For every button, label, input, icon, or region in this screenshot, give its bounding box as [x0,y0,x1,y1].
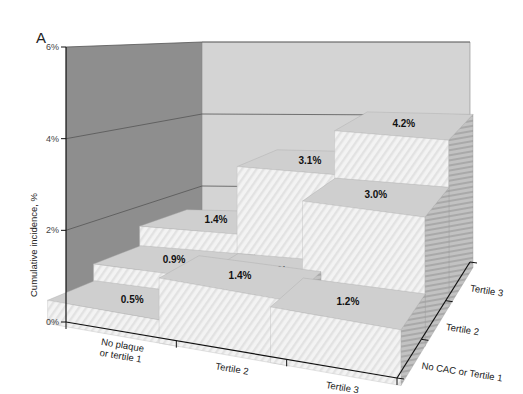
depth-category-label: Tertile 3 [469,282,504,298]
value-label: 1.4% [205,214,228,225]
value-label: 1.4% [229,270,252,281]
depth-category-label: Tertile 2 [445,321,480,337]
depth-category-label: No CAC or Tertile 1 [421,360,503,384]
x-category-label: Tertile 3 [325,379,360,394]
y-tick-label: 6% [46,42,59,52]
value-label: 3.1% [299,155,322,166]
value-label: 0.9% [163,254,186,265]
x-category-label: No plaqueor tertile 1 [99,336,145,365]
chart-stage: 1.4%3.1%4.2%0.9%0.9%3.0%0.5%1.4%1.2% 0%2… [0,0,523,394]
bar-side-face [449,114,473,307]
y-axis-title: Cumulative incidence, % [28,192,39,297]
value-label: 1.2% [337,296,360,307]
panel-label: A [36,29,46,46]
y-tick-label: 4% [46,134,59,144]
x-category-label: Tertile 2 [215,360,250,376]
y-tick-label: 2% [46,225,59,235]
y-tick-label: 0% [46,317,59,327]
value-label: 3.0% [364,189,387,200]
value-label: 0.5% [121,294,144,305]
3d-bar-chart: 1.4%3.1%4.2%0.9%0.9%3.0%0.5%1.4%1.2% 0%2… [0,0,523,394]
value-label: 4.2% [392,118,415,129]
